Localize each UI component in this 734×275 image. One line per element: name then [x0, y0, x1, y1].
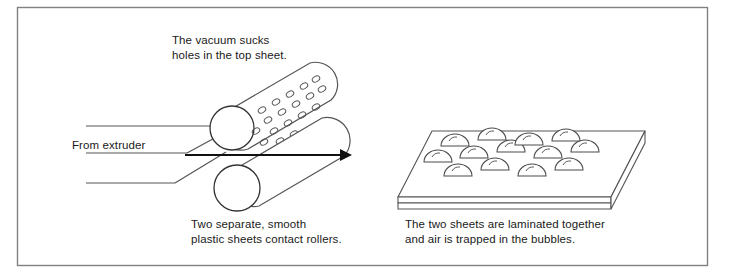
- bubble-sheet: [398, 128, 645, 209]
- bubble-sheet-layer-upper: [398, 197, 611, 203]
- bubble: [478, 128, 506, 140]
- caption-rollers: Two separate, smooth plastic sheets cont…: [191, 217, 342, 246]
- caption-vacuum: The vacuum sucks holes in the top sheet.: [172, 33, 287, 62]
- smooth-roller-end-face: [214, 165, 260, 211]
- perforated-roller-end-face: [210, 106, 254, 150]
- caption-from-extruder: From extruder: [72, 138, 146, 153]
- figure-root: The vacuum sucks holes in the top sheet.…: [0, 0, 734, 275]
- bubble-sheet-layer-lower: [398, 203, 611, 209]
- caption-laminated: The two sheets are laminated together an…: [405, 217, 605, 246]
